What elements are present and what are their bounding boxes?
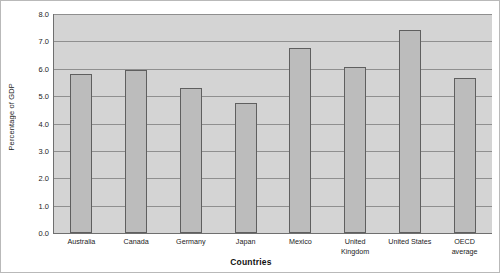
bar-slot xyxy=(109,14,164,233)
bar[interactable] xyxy=(344,67,366,233)
x-axis-tick-labels: AustraliaCanadaGermanyJapanMexicoUnited … xyxy=(54,237,492,256)
bars-group xyxy=(54,14,492,233)
bar[interactable] xyxy=(454,78,476,233)
plot-area xyxy=(53,14,492,234)
x-axis-tick-label: Canada xyxy=(109,237,164,256)
y-axis-title-text: Percentage of GDP xyxy=(7,83,16,151)
x-axis-tick-label: OECD average xyxy=(437,237,492,256)
y-axis-tick-label: 0.0 xyxy=(21,229,49,238)
x-axis-tick-label: Australia xyxy=(54,237,109,256)
y-axis-tick-label: 4.0 xyxy=(21,119,49,128)
x-axis-tick-label: Germany xyxy=(164,237,219,256)
x-axis-tick-label: Mexico xyxy=(273,237,328,256)
bar-chart: Percentage of GDP 8.07.06.05.04.03.02.01… xyxy=(0,0,500,273)
y-axis-tick-label: 5.0 xyxy=(21,92,49,101)
y-axis-tick-label: 1.0 xyxy=(21,201,49,210)
bar[interactable] xyxy=(289,48,311,233)
x-axis-title-text: Countries xyxy=(230,257,271,267)
bar-slot xyxy=(164,14,219,233)
bar[interactable] xyxy=(70,74,92,233)
bar-slot xyxy=(437,14,492,233)
x-axis-tick-label: Japan xyxy=(218,237,273,256)
y-axis-tick-label: 2.0 xyxy=(21,174,49,183)
y-axis-tick-label: 3.0 xyxy=(21,146,49,155)
bar-slot xyxy=(218,14,273,233)
bar-slot xyxy=(383,14,438,233)
y-axis-title: Percentage of GDP xyxy=(3,1,19,233)
y-axis-tick-label: 6.0 xyxy=(21,64,49,73)
bar-slot xyxy=(328,14,383,233)
y-axis-tick-labels: 8.07.06.05.04.03.02.01.00.0 xyxy=(21,1,49,246)
bar[interactable] xyxy=(235,103,257,233)
bar[interactable] xyxy=(125,70,147,233)
y-axis-tick-label: 8.0 xyxy=(21,10,49,19)
bar[interactable] xyxy=(399,30,421,233)
y-axis-tick-label: 7.0 xyxy=(21,37,49,46)
x-axis-title: Countries xyxy=(1,257,500,267)
x-axis-tick-label: United Kingdom xyxy=(328,237,383,256)
x-axis-tick-label: United States xyxy=(383,237,438,256)
bar-slot xyxy=(273,14,328,233)
bar[interactable] xyxy=(180,88,202,233)
bar-slot xyxy=(54,14,109,233)
